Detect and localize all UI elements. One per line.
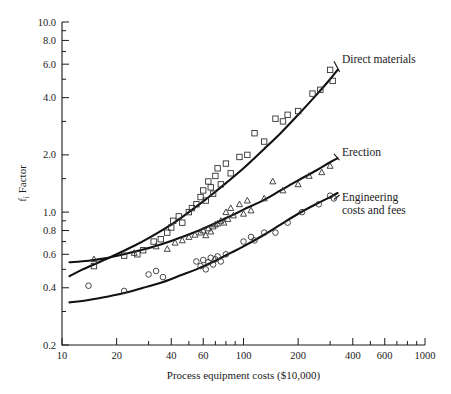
x-tick-label: 10 <box>57 350 68 361</box>
y-tick-label: 0.8 <box>43 225 56 236</box>
x-tick-label: 60 <box>198 350 209 361</box>
y-tick-label: 6.0 <box>43 59 56 70</box>
chart-figure: 102040601002004006001000 0.20.40.60.81.0… <box>0 0 451 394</box>
chart-canvas: 102040601002004006001000 0.20.40.60.81.0… <box>0 0 451 394</box>
x-tick-label: 600 <box>377 350 393 361</box>
y-tick-label: 2.0 <box>43 149 56 160</box>
x-tick-label: 1000 <box>415 350 436 361</box>
y-tick-label: 0.6 <box>43 249 56 260</box>
series-label-circle: Engineering <box>342 191 398 204</box>
y-tick-label: 0.2 <box>43 340 56 351</box>
series-label-line2: costs and fees <box>342 204 406 216</box>
x-tick-label: 200 <box>290 350 306 361</box>
y-tick-label: 1.0 <box>43 207 56 218</box>
x-axis-title: Process equipment costs ($10,000) <box>167 369 321 382</box>
y-tick-label: 4.0 <box>43 92 56 103</box>
y-tick-label: 10.0 <box>38 17 56 28</box>
y-tick-label: 0.4 <box>43 282 57 293</box>
x-tick-label: 400 <box>345 350 361 361</box>
series-label-square: Direct materials <box>342 53 416 65</box>
x-tick-label: 100 <box>236 350 252 361</box>
series-label-triangle: Erection <box>342 146 381 158</box>
y-tick-label: 8.0 <box>43 35 56 46</box>
x-tick-label: 40 <box>166 350 177 361</box>
x-tick-label: 20 <box>111 350 122 361</box>
